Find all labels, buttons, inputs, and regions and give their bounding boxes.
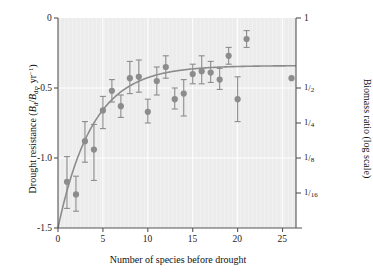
x-tick-label-0: 0: [56, 234, 61, 244]
y-tick-label-1: -0.5: [37, 83, 52, 93]
y2-tick-label-quarter: 1/4: [304, 117, 314, 129]
y2-tick-label-half: 1/2: [304, 82, 314, 94]
y-axis-title-sub2: dr: [32, 88, 39, 94]
x-tick-label-4: 20: [233, 234, 243, 244]
y2-axis-title: Biomass ratio (log scale): [362, 34, 373, 224]
y-tick-label-0: 0: [47, 13, 52, 23]
y-axis-title-slash: /: [27, 100, 38, 103]
y2-tick-label-sixteenth: 1/16: [304, 187, 318, 199]
y-axis-title: Drought resistance (Bd/Bdr, yr−1): [27, 34, 39, 224]
y-axis-title-comma: , yr: [27, 75, 38, 88]
y-axis-title-b1: B: [27, 106, 38, 112]
y-axis-title-sub1: d: [32, 103, 39, 106]
x-tick-label-3: 15: [188, 234, 198, 244]
y-axis-title-sup: −1: [27, 68, 34, 75]
y-tick-label-2: -1.0: [37, 153, 52, 163]
y-axis-title-post: ): [27, 64, 38, 67]
y2-tick-label-eighth: 1/8: [304, 152, 314, 164]
x-tick-label-2: 10: [143, 234, 153, 244]
y-tick-label-3: -1.5: [37, 223, 52, 233]
y-axis-title-b2: B: [27, 94, 38, 100]
x-tick-label-5: 25: [278, 234, 288, 244]
x-axis-title: Number of species before drought: [58, 254, 298, 265]
y2-tick-label-1: 1: [304, 13, 309, 23]
y-axis-title-pre: Drought resistance (: [27, 112, 38, 193]
x-tick-label-1: 5: [100, 234, 105, 244]
